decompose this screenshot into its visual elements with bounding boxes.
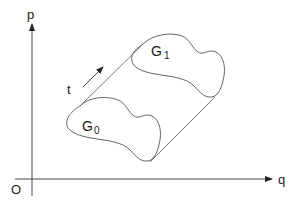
region-g0-label: G0: [82, 118, 100, 136]
region-g0-name: G: [82, 118, 93, 134]
flow-time-label: t: [67, 82, 71, 97]
region-g0-outline: [67, 98, 161, 162]
phase-space-diagram: p q O t G0 G1: [0, 0, 300, 207]
origin-label: O: [11, 182, 21, 197]
flow-direction-arrow: [83, 67, 103, 87]
q-axis-label: q: [278, 172, 285, 187]
region-g1-name: G: [151, 43, 162, 59]
p-axis-label: p: [27, 7, 34, 22]
region-g1-outline: [132, 34, 225, 97]
region-g0-subscript: 0: [94, 125, 100, 136]
region-g1-subscript: 1: [164, 50, 170, 61]
region-g1-label: G1: [151, 43, 170, 61]
lower-envelope-line: [150, 97, 215, 162]
